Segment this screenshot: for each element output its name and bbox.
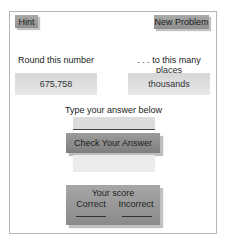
score-title: Your score [66,188,160,198]
places-label: . . . to this many places [128,55,210,75]
answer-input[interactable] [73,117,155,130]
check-answer-button[interactable]: Check Your Answer [66,133,160,153]
feedback-area [73,155,155,172]
places-display: thousands [128,73,210,95]
incorrect-label: Incorrect [114,199,158,209]
new-problem-button[interactable]: New Problem [154,15,209,29]
correct-label: Correct [69,199,113,209]
hint-button[interactable]: Hint [15,15,38,28]
check-answer-button-label: Check Your Answer [74,138,152,148]
new-problem-button-label: New Problem [154,17,208,27]
incorrect-count-line [122,216,152,217]
answer-prompt: Type your answer below [40,105,187,115]
hint-button-label: Hint [18,17,34,27]
score-box: Your score Correct Incorrect [66,185,160,225]
correct-count-line [76,216,106,217]
number-display: 675,758 [15,73,97,95]
round-number-label: Round this number [15,55,97,65]
places-value: thousands [148,79,190,89]
number-value: 675,758 [40,79,73,89]
